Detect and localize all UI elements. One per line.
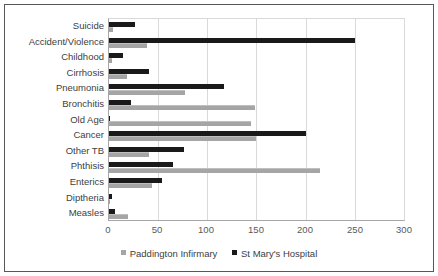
xtick-0: 0	[105, 224, 110, 235]
xtick-100: 100	[198, 224, 214, 235]
bar-accident-violence-stmarys	[109, 38, 355, 43]
legend-item-st-marys-hospital: St Mary's Hospital	[232, 247, 317, 259]
category-label-bronchitis: Bronchitis	[0, 99, 104, 109]
xtick-250: 250	[347, 224, 363, 235]
category-label-old-age: Old Age	[0, 115, 104, 125]
bar-enterics-paddington	[109, 183, 152, 188]
bar-diptheria-paddington	[109, 199, 110, 204]
category-label-cirrhosis: Cirrhosis	[0, 68, 104, 78]
xtick-50: 50	[152, 224, 163, 235]
bar-suicide-paddington	[109, 27, 113, 32]
category-label-phthisis: Phthisis	[0, 161, 104, 171]
bar-cirrhosis-paddington	[109, 74, 127, 79]
gridline-50	[158, 19, 159, 220]
bar-phthisis-paddington	[109, 168, 320, 173]
bar-accident-violence-paddington	[109, 43, 147, 48]
bar-bronchitis-stmarys	[109, 100, 131, 105]
bar-bronchitis-paddington	[109, 105, 255, 110]
bar-cancer-paddington	[109, 136, 256, 141]
category-label-pneumonia: Pneumonia	[0, 83, 104, 93]
bar-other-tb-paddington	[109, 152, 149, 157]
bar-old-age-paddington	[109, 121, 251, 126]
gridline-200	[306, 19, 307, 220]
category-label-cancer: Cancer	[0, 130, 104, 140]
bar-cirrhosis-stmarys	[109, 69, 149, 74]
category-label-childhood: Childhood	[0, 52, 104, 62]
gridline-300	[404, 19, 405, 220]
value-axis-labels: 0 50 100 150 200 250 300	[0, 224, 438, 238]
xtick-150: 150	[248, 224, 264, 235]
bar-cancer-stmarys	[109, 131, 306, 136]
legend-item-paddington-infirmary: Paddington Infirmary	[121, 247, 218, 259]
bar-pneumonia-stmarys	[109, 84, 224, 89]
bar-measles-stmarys	[109, 209, 115, 214]
bar-diptheria-stmarys	[109, 194, 112, 199]
category-label-other-tb: Other TB	[0, 146, 104, 156]
gridline-150	[256, 19, 257, 220]
category-label-accident-violence: Accident/Violence	[0, 37, 104, 47]
square-marker-paddington-icon	[121, 250, 126, 255]
category-label-suicide: Suicide	[0, 21, 104, 31]
bar-suicide-stmarys	[109, 22, 135, 27]
bar-old-age-stmarys	[109, 116, 110, 121]
square-marker-stmarys-icon	[232, 250, 237, 255]
gridline-250	[355, 19, 356, 220]
category-axis-labels: Suicide Accident/Violence Childhood Cirr…	[0, 18, 104, 221]
category-label-measles: Measles	[0, 208, 104, 218]
bar-enterics-stmarys	[109, 178, 162, 183]
legend-label-paddington-infirmary: Paddington Infirmary	[130, 248, 218, 259]
bar-childhood-stmarys	[109, 53, 123, 58]
gridline-100	[207, 19, 208, 220]
legend-label-st-marys-hospital: St Mary's Hospital	[241, 248, 317, 259]
bar-measles-paddington	[109, 214, 128, 219]
category-label-diptheria: Diptheria	[0, 193, 104, 203]
xtick-300: 300	[396, 224, 412, 235]
chart-figure: Suicide Accident/Violence Childhood Cirr…	[0, 0, 438, 276]
bar-childhood-paddington	[109, 58, 112, 63]
bar-phthisis-stmarys	[109, 162, 173, 167]
chart-area: Suicide Accident/Violence Childhood Cirr…	[0, 0, 438, 276]
xtick-200: 200	[297, 224, 313, 235]
bar-pneumonia-paddington	[109, 90, 185, 95]
category-label-enterics: Enterics	[0, 177, 104, 187]
bar-other-tb-stmarys	[109, 147, 184, 152]
chart-legend: Paddington Infirmary St Mary's Hospital	[0, 247, 438, 259]
plot-box	[108, 18, 405, 221]
